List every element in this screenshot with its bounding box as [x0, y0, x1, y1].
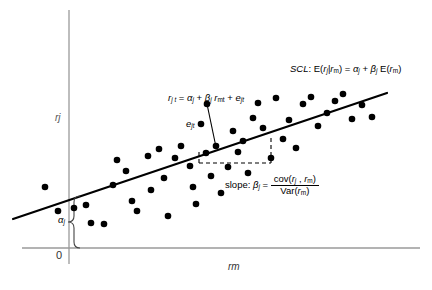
scatter-point: [369, 114, 376, 121]
scatter-point: [286, 117, 293, 124]
scatter-point: [260, 125, 267, 132]
scatter-point: [161, 175, 168, 182]
scatter-point: [218, 190, 225, 197]
scatter-point: [230, 128, 237, 135]
scatter-point: [178, 143, 185, 150]
scatter-point: [225, 164, 232, 171]
slope-text: slope:: [225, 179, 253, 190]
scatter-point: [193, 201, 200, 208]
residual-label: ejt: [186, 119, 195, 130]
scatter-point: [349, 116, 356, 123]
slope-formula-label: slope: βj = cov(rj , rm)Var(rm): [225, 174, 319, 197]
cov-close: ): [313, 173, 316, 184]
scatter-point: [300, 101, 307, 108]
regression-equation-label: rj t = αj + βj rmt + ejt: [168, 93, 244, 104]
scatter-point: [213, 143, 220, 150]
x-axis-label: rm: [228, 262, 240, 272]
figure-canvas: SCL: E(rj|rm) = αj + βj E(rm) rj t = αj …: [0, 0, 432, 290]
scatter-point: [280, 136, 287, 143]
scatter-point: [332, 98, 339, 105]
var-close: ): [306, 185, 309, 196]
scatter-point: [255, 100, 262, 107]
scatter-point: [293, 145, 300, 152]
residual-e-sub: jt: [191, 122, 194, 129]
cov-text: cov(: [274, 173, 292, 184]
scatter-point: [165, 213, 172, 220]
scatter-plot-svg: [0, 0, 432, 290]
scatter-point: [340, 91, 347, 98]
slope-denominator: Var(rm): [271, 186, 319, 197]
scatter-point: [250, 115, 257, 122]
residual-dropline: [207, 104, 216, 147]
reg-rm-sub: mt: [217, 96, 224, 103]
scatter-point: [203, 150, 210, 157]
scatter-point: [110, 182, 117, 189]
cov-comma: ,: [296, 173, 304, 184]
slope-triangle: [199, 138, 271, 163]
alpha-brace: [68, 196, 80, 248]
scatter-point: [187, 163, 194, 170]
intercept-alpha-sub: j: [63, 218, 64, 225]
scatter-point: [359, 102, 366, 109]
scatter-point: [42, 184, 49, 191]
scatter-point: [88, 220, 95, 227]
scatter-point: [114, 157, 121, 164]
scatter-point: [172, 155, 179, 162]
scl-prefix: SCL: [290, 63, 308, 74]
scl-expectation: E(: [314, 63, 324, 74]
scatter-point: [148, 187, 155, 194]
reg-plus-1: +: [194, 92, 205, 103]
scl-colon: :: [308, 63, 311, 74]
scatter-point: [156, 146, 163, 153]
intercept-alpha-label: αj: [58, 215, 65, 226]
scatter-point: [268, 155, 275, 162]
scatter-point: [324, 110, 331, 117]
scatter-point: [129, 198, 136, 205]
scl-close-eq: ) =: [339, 63, 353, 74]
reg-eq: =: [176, 92, 187, 103]
scatter-point: [308, 94, 315, 101]
x-axis-r: rm: [228, 261, 240, 272]
scatter-point: [134, 208, 141, 215]
scl-plus: +: [360, 63, 371, 74]
y-axis-label: rj: [55, 113, 61, 123]
scatter-point: [315, 123, 322, 130]
scatter-point: [235, 149, 242, 156]
scatter-point: [190, 184, 197, 191]
reg-plus-2: +: [225, 92, 236, 103]
scatter-point: [83, 202, 90, 209]
scatter-point: [208, 173, 215, 180]
var-text: Var(: [280, 185, 297, 196]
reg-e-sub: jt: [241, 96, 244, 103]
scl-equation-label: SCL: E(rj|rm) = αj + βj E(rm): [290, 64, 401, 75]
scatter-point: [145, 153, 152, 160]
origin-label: 0: [56, 250, 62, 261]
slope-equals: =: [260, 179, 271, 190]
y-axis-r: rj: [55, 112, 61, 123]
scl-tail-close: ): [398, 63, 401, 74]
scatter-point: [273, 95, 280, 102]
scatter-point: [123, 168, 130, 175]
scatter-point: [240, 138, 247, 145]
slope-fraction: cov(rj , rm)Var(rm): [271, 174, 319, 197]
scl-tail: E(: [377, 63, 389, 74]
scatter-point: [71, 205, 78, 212]
scatter-point: [101, 221, 108, 228]
scatter-point: [198, 121, 205, 128]
